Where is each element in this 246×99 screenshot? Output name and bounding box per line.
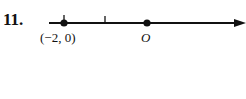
point-label-origin: O — [141, 30, 150, 46]
point-neg2 — [60, 19, 67, 26]
number-line — [0, 0, 246, 99]
point-origin — [143, 19, 150, 26]
arrow-head-icon — [234, 19, 246, 27]
point-label-neg2: (−2, 0) — [40, 30, 76, 46]
